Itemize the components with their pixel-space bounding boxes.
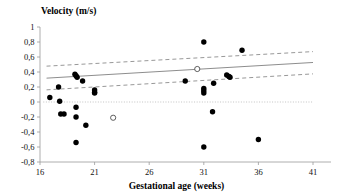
chart-canvas: -0,8-0,6-0,4-0,200,20,40,60,811621263136…	[0, 0, 337, 195]
y-tick-label: 0,4	[24, 67, 35, 77]
y-tick-label: 0,8	[24, 37, 35, 47]
velocity-vs-gestational-age-chart: -0,8-0,6-0,4-0,200,20,40,60,811621263136…	[0, 0, 337, 195]
data-point-filled	[239, 48, 244, 53]
data-point-filled	[47, 95, 52, 100]
data-point-open	[195, 66, 200, 71]
data-point-filled	[73, 105, 78, 110]
regression-line	[47, 62, 313, 78]
y-tick-label: -0,2	[21, 112, 34, 122]
x-tick-label: 36	[254, 167, 263, 177]
data-point-filled	[201, 90, 206, 95]
y-axis-title: Velocity (m/s)	[41, 6, 96, 17]
y-tick-label: 0	[30, 97, 34, 107]
y-tick-label: -0,6	[21, 142, 34, 152]
data-point-filled	[92, 90, 97, 95]
data-point-filled	[210, 109, 215, 114]
data-point-filled	[74, 75, 79, 80]
data-point-filled	[56, 84, 61, 89]
x-tick-label: 26	[145, 167, 154, 177]
x-tick-label: 16	[36, 167, 45, 177]
data-point-filled	[201, 39, 206, 44]
data-point-filled	[73, 114, 78, 119]
lower-confidence-band	[47, 74, 313, 90]
data-point-filled	[227, 75, 232, 80]
y-tick-label: 0,6	[24, 52, 35, 62]
data-point-filled	[256, 137, 261, 142]
x-tick-label: 41	[309, 167, 318, 177]
y-tick-label: -0,8	[21, 157, 34, 167]
data-point-filled	[83, 123, 88, 128]
data-point-filled	[183, 78, 188, 83]
x-axis-title: Gestational age (weeks)	[129, 181, 225, 192]
y-tick-label: 1	[30, 22, 34, 32]
data-point-filled	[73, 140, 78, 145]
upper-confidence-band	[47, 52, 313, 67]
y-tick-label: 0,2	[24, 82, 35, 92]
x-tick-label: 21	[90, 167, 99, 177]
data-point-filled	[80, 78, 85, 83]
x-tick-label: 31	[200, 167, 209, 177]
data-point-filled	[61, 111, 66, 116]
data-point-open	[111, 115, 116, 120]
y-tick-label: -0,4	[21, 127, 35, 137]
data-point-filled	[211, 81, 216, 86]
data-point-filled	[201, 144, 206, 149]
data-point-filled	[57, 99, 62, 104]
